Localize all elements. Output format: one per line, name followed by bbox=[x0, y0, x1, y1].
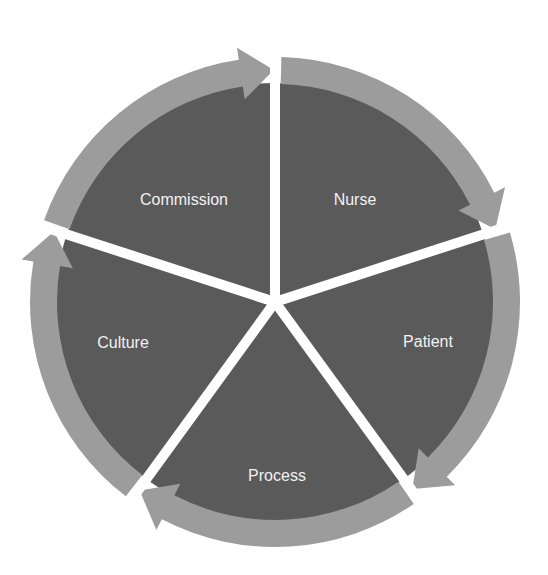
segment-label-culture: Culture bbox=[97, 334, 149, 351]
segment-label-patient: Patient bbox=[403, 333, 453, 350]
cycle-diagram: Nurse Patient Process Culture Commission bbox=[0, 0, 548, 575]
segment-label-nurse: Nurse bbox=[334, 191, 377, 208]
segment-label-process: Process bbox=[248, 467, 306, 484]
segment-label-commission: Commission bbox=[140, 191, 228, 208]
